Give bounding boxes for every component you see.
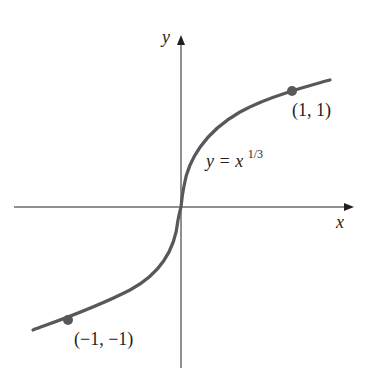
equation-base: y = x	[204, 151, 243, 171]
equation-label: y = x 1/3	[204, 147, 263, 171]
y-axis-label: y	[160, 27, 170, 47]
point-neg1-neg1	[63, 315, 73, 325]
equation-exponent: 1/3	[248, 147, 263, 161]
cube-root-graph: y x (1, 1) (−1, −1) y = x 1/3	[0, 0, 371, 378]
point-1-1	[287, 86, 297, 96]
x-axis-label: x	[335, 212, 344, 232]
point-neg-label: (−1, −1)	[74, 329, 133, 350]
point-pos-label: (1, 1)	[292, 100, 331, 121]
